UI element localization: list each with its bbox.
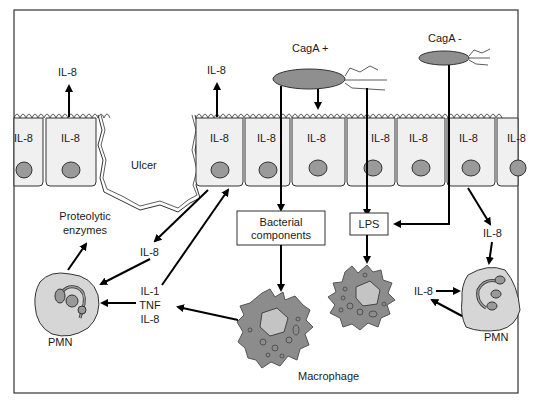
cell-label: IL-8 [307, 132, 326, 144]
pmn-left [35, 273, 99, 336]
nucleus [62, 162, 80, 178]
cell-label: IL-8 [409, 132, 428, 144]
caga-negative-bacterium [419, 51, 469, 65]
bacterial-components-line1: Bacterial [260, 216, 303, 228]
cell-label: IL-8 [371, 132, 390, 144]
caga-negative-label: CagA - [428, 32, 462, 44]
pmn-left-label: PMN [48, 336, 73, 348]
proteolytic-enzymes-line2: enzymes [63, 224, 108, 236]
nucleus [16, 162, 32, 178]
cell-label: IL-8 [257, 132, 276, 144]
nucleus [211, 162, 229, 178]
epithelium-left: IL-8 IL-8 [14, 114, 110, 186]
pmn-right-label: PMN [484, 331, 509, 343]
cell-label: IL-8 [507, 132, 526, 144]
cell-label: IL-8 [459, 132, 478, 144]
diagram-canvas: IL-8 IL-8 Ulcer IL-8 IL-8 IL-8 IL-8 IL-8… [0, 0, 534, 401]
left-il8-label: IL-8 [140, 246, 159, 258]
caga-positive-label: CagA + [292, 42, 328, 54]
cytokine-tnf: TNF [139, 299, 161, 311]
cell-label: IL-8 [210, 132, 229, 144]
lps-label: LPS [359, 218, 380, 230]
right-il8-loop-label: IL-8 [414, 285, 433, 297]
nucleus [412, 160, 430, 176]
cell-label: IL-8 [61, 132, 80, 144]
ulcer-label: Ulcer [131, 159, 157, 171]
cell-label: IL-8 [14, 132, 33, 144]
bacterial-components-line2: components [251, 229, 311, 241]
nucleus [309, 160, 327, 176]
right-il8-label: IL-8 [483, 227, 502, 239]
nucleus [462, 160, 480, 176]
secreted-il8-right: IL-8 [207, 64, 226, 76]
epithelium-right: IL-8 IL-8 IL-8 IL-8 IL-8 IL-8 IL-8 [196, 114, 526, 186]
cytokine-il8: IL-8 [141, 313, 160, 325]
nucleus [259, 162, 277, 178]
cytokine-il1: IL-1 [141, 285, 160, 297]
macrophage-label: Macrophage [298, 370, 359, 382]
nucleus [510, 160, 526, 176]
caga-positive-bacterium [273, 69, 345, 89]
secreted-il8-left: IL-8 [58, 66, 77, 78]
proteolytic-enzymes-line1: Proteolytic [59, 210, 111, 222]
